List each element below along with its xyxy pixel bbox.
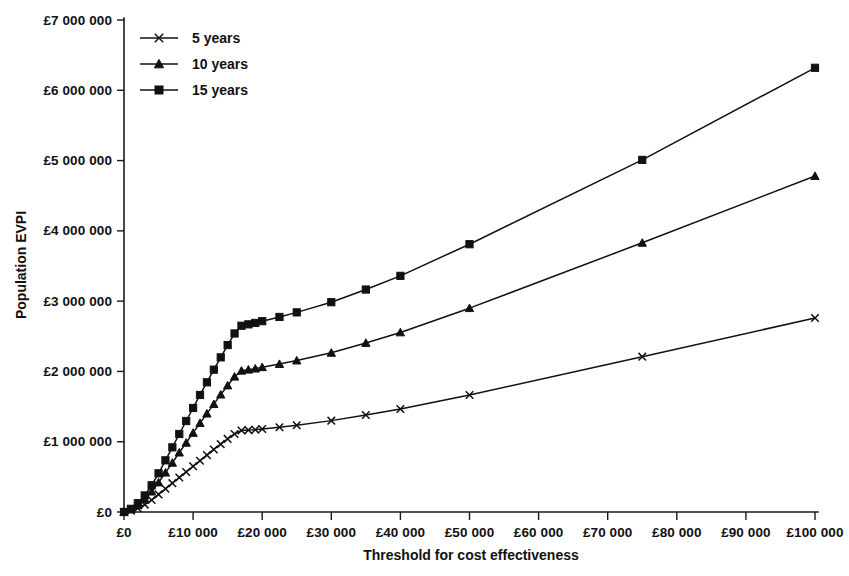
data-point-marker-square (148, 482, 155, 489)
x-axis-title: Threshold for cost effectiveness (363, 547, 579, 563)
x-tick-label: £40 000 (376, 525, 426, 540)
data-point-marker-square (224, 341, 231, 348)
data-point-marker-square (176, 430, 183, 437)
data-point-marker-square (141, 492, 148, 499)
x-tick-label: £50 000 (445, 525, 495, 540)
data-point-marker-square (328, 299, 335, 306)
y-tick-label: £0 (97, 505, 112, 520)
data-point-marker-square (466, 241, 473, 248)
data-point-marker-square (169, 444, 176, 451)
data-point-marker-square (252, 319, 259, 326)
x-tick-label: £20 000 (237, 525, 287, 540)
x-tick-label: £10 000 (168, 525, 218, 540)
x-tick-label: £90 000 (721, 525, 771, 540)
data-point-marker-square (639, 156, 646, 163)
data-point-marker-square (276, 313, 283, 320)
data-point-marker-square (245, 321, 252, 328)
x-tick-label: £0 (116, 525, 131, 540)
y-tick-label: £2 000 000 (43, 364, 112, 379)
y-tick-label: £7 000 000 (43, 13, 112, 28)
y-tick-label: £3 000 000 (43, 294, 112, 309)
data-point-marker-square (811, 64, 818, 71)
x-tick-label: £100 000 (786, 525, 843, 540)
data-point-marker-square (127, 505, 134, 512)
legend-item-label: 10 years (192, 56, 248, 72)
y-tick-label: £4 000 000 (43, 223, 112, 238)
y-tick-label: £6 000 000 (43, 83, 112, 98)
x-tick-label: £30 000 (307, 525, 357, 540)
y-tick-label: £1 000 000 (43, 434, 112, 449)
population-evpi-line-chart: £0£1 000 000£2 000 000£3 000 000£4 000 0… (0, 0, 849, 576)
data-point-marker-square (162, 457, 169, 464)
chart-legend: 5 years10 years15 years (140, 30, 248, 98)
data-point-marker-square (155, 470, 162, 477)
data-point-marker-square (203, 379, 210, 386)
chart-container: £0£1 000 000£2 000 000£3 000 000£4 000 0… (0, 0, 849, 576)
x-tick-label: £80 000 (652, 525, 702, 540)
y-tick-label: £5 000 000 (43, 153, 112, 168)
x-tick-label: £70 000 (583, 525, 633, 540)
data-point-marker-square (120, 508, 127, 515)
data-point-marker-square (362, 286, 369, 293)
data-point-marker-square (397, 272, 404, 279)
data-point-marker-square (183, 417, 190, 424)
data-point-marker-square (259, 318, 266, 325)
data-point-marker-square (238, 322, 245, 329)
legend-item-label: 5 years (192, 30, 240, 46)
y-axis-title: Population EVPI (13, 211, 29, 319)
data-point-marker-square (134, 500, 141, 507)
data-point-marker-square (190, 404, 197, 411)
x-tick-label: £60 000 (514, 525, 564, 540)
data-point-marker-square (293, 309, 300, 316)
legend-item-label: 15 years (192, 82, 248, 98)
data-point-marker-square (231, 330, 238, 337)
data-point-marker-square (155, 86, 163, 94)
chart-background (0, 0, 849, 576)
data-point-marker-square (196, 391, 203, 398)
data-point-marker-square (210, 366, 217, 373)
data-point-marker-square (217, 354, 224, 361)
